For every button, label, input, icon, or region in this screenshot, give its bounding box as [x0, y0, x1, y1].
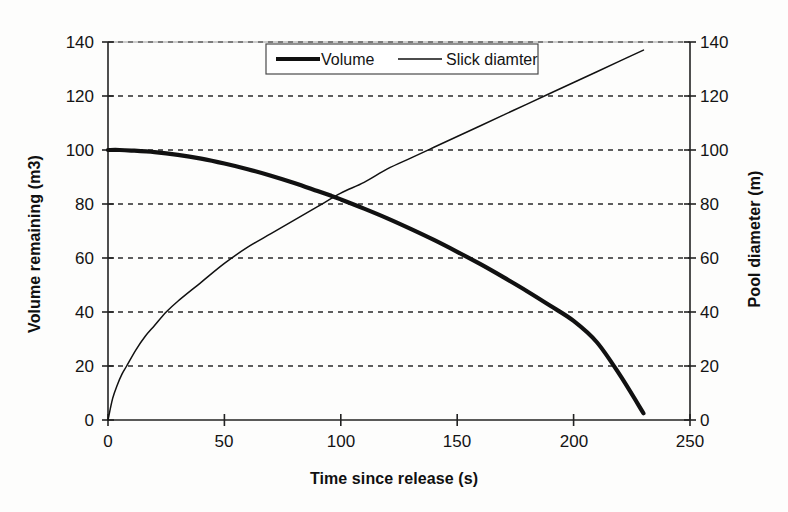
- x-tick-50: 50: [194, 432, 254, 452]
- legend-label-volume: Volume: [321, 51, 374, 68]
- y-left-tick-140: 140: [34, 33, 94, 53]
- x-tick-150: 150: [427, 432, 487, 452]
- x-axis-title: Time since release (s): [0, 470, 788, 488]
- series-line-slick-diamter: [108, 50, 643, 420]
- y-left-tick-0: 0: [34, 411, 94, 431]
- axis-ticks-group: [102, 42, 696, 426]
- chart-figure: Volume Slick diamter 140 120 100 80 60 4…: [0, 0, 788, 512]
- legend-label-slick-diamter: Slick diamter: [446, 51, 538, 68]
- y-axis-right-title: Pool diameter (m): [746, 79, 764, 399]
- y-right-tick-0: 0: [700, 411, 760, 431]
- x-tick-100: 100: [311, 432, 371, 452]
- y-axis-left-title: Volume remaining (m3): [26, 84, 44, 404]
- x-tick-250: 250: [660, 432, 720, 452]
- gridlines-group: [108, 42, 690, 366]
- x-tick-200: 200: [544, 432, 604, 452]
- series-line-volume: [108, 150, 643, 413]
- y-right-tick-140: 140: [700, 33, 760, 53]
- chart-legend[interactable]: Volume Slick diamter: [266, 44, 538, 74]
- x-tick-0: 0: [78, 432, 138, 452]
